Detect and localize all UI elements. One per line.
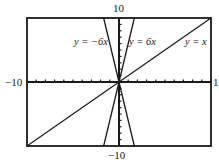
x-max-label: 1 [213,77,219,88]
x-min-label: −10 [5,77,22,88]
y-min-label: −10 [108,150,125,161]
label-y-6x: y = 6x [129,37,156,48]
label-y-neg6x: y = −6x [74,37,108,48]
graph-window [0,0,219,162]
label-y-x: y = x [185,37,207,48]
y-max-label: 10 [113,3,124,14]
